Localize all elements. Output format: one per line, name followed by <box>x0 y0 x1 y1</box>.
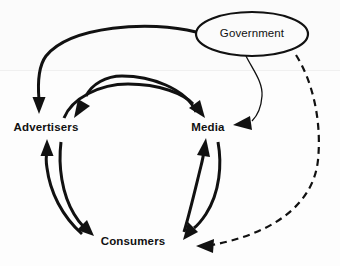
edge-government-to-media <box>246 56 262 121</box>
consumers-node-label[interactable]: Consumers <box>101 236 166 248</box>
diagram-canvas: Government Advertisers Media Consumers <box>0 0 340 266</box>
arrowhead-government-to-consumers <box>196 239 214 253</box>
arrowhead-consumers-to-advertisers <box>41 139 54 156</box>
advertisers-node-label[interactable]: Advertisers <box>14 122 79 134</box>
edge-government-to-consumers <box>212 55 319 245</box>
government-node-label[interactable]: Government <box>220 28 284 40</box>
arrowhead-government-to-media <box>233 116 252 130</box>
arrowhead-government-to-advertisers <box>33 97 46 114</box>
media-node-label[interactable]: Media <box>191 122 224 134</box>
arrowhead-consumers-to-media <box>197 138 210 157</box>
